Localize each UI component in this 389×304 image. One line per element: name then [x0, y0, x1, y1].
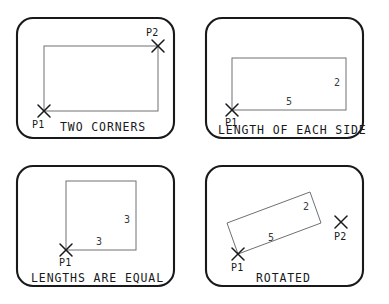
- dimension-label-right: 3: [124, 214, 130, 225]
- panel-caption: TWO CORNERS: [60, 120, 146, 134]
- panel-caption: LENGTHS ARE EQUAL: [31, 271, 164, 285]
- panel-frame: [17, 166, 174, 286]
- panel-two-corners: P1 P2 TWO CORNERS: [17, 18, 174, 138]
- dimension-label-bottom: 5: [268, 232, 274, 243]
- panel-caption: ROTATED: [256, 271, 311, 285]
- dimension-label-right: 2: [334, 77, 340, 88]
- point-label-p2: P2: [146, 27, 158, 38]
- panel-lengths-are-equal: P1 3 3 LENGTHS ARE EQUAL: [17, 166, 174, 286]
- dimension-label-bottom: 5: [286, 96, 292, 107]
- panel-caption: LENGTH OF EACH SIDE: [218, 123, 367, 137]
- rectangle-methods-figure: P1 P2 TWO CORNERS P1 5 2 LENGTH OF EACH …: [0, 0, 389, 304]
- panel-frame: [206, 166, 363, 286]
- point-label-p1: P1: [59, 257, 71, 268]
- point-label-p2: P2: [334, 231, 346, 242]
- panel-rotated: P1 P2 5 2 ROTATED: [206, 166, 363, 286]
- dimension-label-bottom: 3: [96, 236, 102, 247]
- panel-length-of-each-side: P1 5 2 LENGTH OF EACH SIDE: [206, 18, 367, 138]
- dimension-label-right: 2: [303, 201, 309, 212]
- point-label-p1: P1: [231, 262, 243, 273]
- point-label-p1: P1: [32, 119, 44, 130]
